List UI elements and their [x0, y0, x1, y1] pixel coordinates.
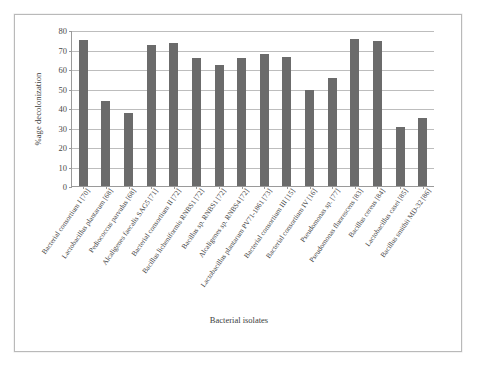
bar — [373, 41, 382, 186]
bar-slot — [185, 31, 208, 186]
bar-slot — [366, 31, 389, 186]
y-axis-title-label: %age decolonization — [33, 73, 43, 146]
bar — [79, 40, 88, 186]
bar — [124, 113, 133, 186]
bar — [328, 78, 337, 186]
bar — [260, 54, 269, 186]
bar-chart: %age decolonization 01020304050607080 Ba… — [15, 15, 463, 353]
bar — [282, 57, 291, 186]
figure-frame: %age decolonization 01020304050607080 Ba… — [14, 14, 462, 352]
y-tick-label: 70 — [59, 46, 68, 55]
bar — [215, 65, 224, 186]
y-tick-label: 60 — [59, 66, 68, 75]
bar — [101, 101, 110, 186]
bars-layer — [72, 31, 434, 186]
bar-slot — [344, 31, 367, 186]
bar-slot — [72, 31, 95, 186]
y-tick-label: 80 — [59, 27, 68, 36]
bar-slot — [208, 31, 231, 186]
bar — [192, 58, 201, 186]
bar — [147, 45, 156, 186]
y-tick-label: 10 — [59, 163, 68, 172]
y-tick-label: 0 — [63, 183, 67, 192]
bar-slot — [411, 31, 434, 186]
bar-slot — [230, 31, 253, 186]
bar — [305, 90, 314, 186]
y-tick-label: 40 — [59, 105, 68, 114]
x-axis-tick-labels: Bacterial consortium I [70]Lactobacillus… — [71, 188, 434, 308]
plot-area: 01020304050607080 — [71, 31, 434, 187]
bar — [169, 43, 178, 186]
bar-slot — [253, 31, 276, 186]
y-axis-title: %age decolonization — [31, 31, 45, 187]
bar-slot — [95, 31, 118, 186]
bar — [237, 58, 246, 186]
bar-slot — [117, 31, 140, 186]
x-axis-title-label: Bacterial isolates — [210, 315, 268, 325]
bar-slot — [163, 31, 186, 186]
bar-slot — [140, 31, 163, 186]
bar-slot — [389, 31, 412, 186]
bar-slot — [298, 31, 321, 186]
bar — [418, 118, 427, 186]
y-tick-label: 20 — [59, 144, 68, 153]
bar-slot — [321, 31, 344, 186]
bar — [350, 39, 359, 186]
y-tick-label: 30 — [59, 124, 68, 133]
bar-slot — [276, 31, 299, 186]
y-tick-label: 50 — [59, 85, 68, 94]
x-axis-title: Bacterial isolates — [15, 315, 463, 325]
bar — [396, 127, 405, 186]
